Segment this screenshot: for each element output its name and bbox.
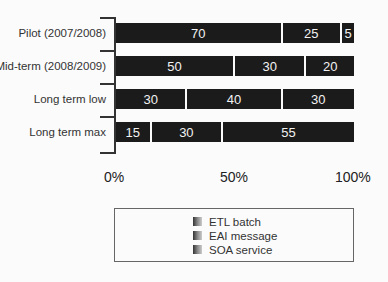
category-label: Mid-term (2008/2009): [0, 60, 106, 72]
legend-label: EAI message: [209, 230, 277, 242]
bar-segment: 50: [116, 56, 235, 76]
bar-segment: 25: [283, 23, 343, 43]
stacked-bar: 503020: [116, 56, 354, 76]
x-tick-label: 0%: [104, 169, 124, 185]
bar-segment: 55: [223, 122, 354, 142]
legend-swatch-icon: [193, 245, 202, 254]
axis-tick: [100, 116, 115, 118]
legend-swatch-icon: [193, 231, 202, 240]
legend-swatch-icon: [193, 217, 202, 226]
x-tick-label: 100%: [335, 169, 371, 185]
axis-tick: [100, 83, 115, 85]
bar-segment: 30: [283, 89, 354, 109]
bar-segment: 5: [342, 23, 354, 43]
category-label: Pilot (2007/2008): [18, 27, 106, 39]
axis-tick: [100, 17, 115, 19]
category-label: Long term max: [29, 126, 106, 138]
bar-segment: 70: [116, 23, 283, 43]
category-label: Long term low: [34, 93, 106, 105]
stacked-bar: 304030: [116, 89, 354, 109]
legend-item: ETL batch: [193, 215, 261, 228]
axis-tick: [100, 152, 115, 154]
bar-segment: 40: [187, 89, 282, 109]
legend: ETL batch EAI message SOA service: [114, 208, 354, 262]
stacked-bar: 70255: [116, 23, 354, 43]
legend-item: EAI message: [193, 229, 277, 242]
stacked-bar: 153055: [116, 122, 354, 142]
legend-label: ETL batch: [209, 216, 261, 228]
x-tick-label: 50%: [220, 169, 248, 185]
bar-segment: 30: [152, 122, 223, 142]
bar-segment: 30: [235, 56, 306, 76]
legend-item: SOA service: [193, 243, 272, 256]
bar-segment: 30: [116, 89, 187, 109]
bar-segment: 15: [116, 122, 152, 142]
legend-label: SOA service: [209, 244, 272, 256]
bar-segment: 20: [306, 56, 354, 76]
axis-tick: [100, 50, 115, 52]
